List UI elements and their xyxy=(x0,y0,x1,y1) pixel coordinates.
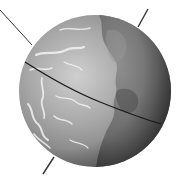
terminator-shadow xyxy=(19,15,171,167)
rotation-axis-top xyxy=(138,9,148,27)
globe-illustration xyxy=(0,0,182,194)
rotation-axis-top-left xyxy=(0,10,32,45)
rotation-axis-bottom xyxy=(43,157,54,174)
